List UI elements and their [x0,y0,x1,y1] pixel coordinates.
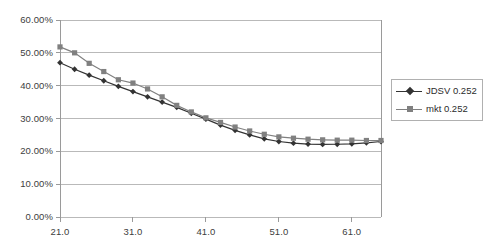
y-axis-tick-label: 10.00% [5,178,53,189]
x-axis-tick-label: 61.0 [332,226,372,237]
legend-line-marker-icon [396,104,422,114]
chart-container: 0.00%10.00%20.00%30.00%40.00%50.00%60.00… [0,0,491,245]
legend-line-marker-icon [396,86,422,96]
y-axis-tick-label: 40.00% [5,80,53,91]
x-axis-tick-label: 51.0 [259,226,299,237]
y-axis-tick-label: 20.00% [5,145,53,156]
x-axis-tick-label: 21.0 [40,226,80,237]
x-axis-tick-label: 41.0 [186,226,226,237]
y-axis-tick-label: 30.00% [5,113,53,124]
legend-label-mkt: mkt 0.252 [426,104,468,114]
legend-item-jdsv[interactable]: JDSV 0.252 [396,83,477,99]
line-chart-plot [0,0,491,245]
chart-legend: JDSV 0.252 mkt 0.252 [391,79,483,121]
y-axis-tick-label: 60.00% [5,14,53,25]
y-axis-tick-label: 50.00% [5,47,53,58]
y-axis-tick-label: 0.00% [5,211,53,222]
legend-item-mkt[interactable]: mkt 0.252 [396,101,468,117]
legend-label-jdsv: JDSV 0.252 [426,86,477,96]
x-axis-tick-label: 31.0 [113,226,153,237]
